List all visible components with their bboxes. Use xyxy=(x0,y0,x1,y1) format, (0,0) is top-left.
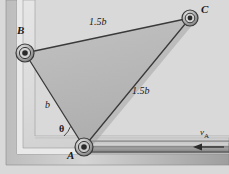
label-point-b: B xyxy=(17,25,24,36)
label-side-ab: b xyxy=(45,100,50,110)
label-side-ac: 1.5b xyxy=(132,86,150,96)
pin-joint-a xyxy=(75,138,93,156)
pin-a-center xyxy=(81,144,87,150)
pin-b-center xyxy=(22,50,28,56)
label-side-bc: 1.5b xyxy=(89,17,107,27)
figure-canvas xyxy=(0,0,229,174)
label-angle-theta: θ xyxy=(59,124,64,134)
label-point-a: A xyxy=(67,150,74,161)
mechanics-figure: B C A 1.5b 1.5b b θ vA xyxy=(0,0,229,174)
pin-c-center xyxy=(188,16,193,21)
velocity-subscript: A xyxy=(204,132,209,140)
label-velocity-va: vA xyxy=(200,128,209,140)
pin-joint-c xyxy=(182,10,198,26)
pin-joint-b xyxy=(16,44,34,62)
label-point-c: C xyxy=(201,4,208,15)
